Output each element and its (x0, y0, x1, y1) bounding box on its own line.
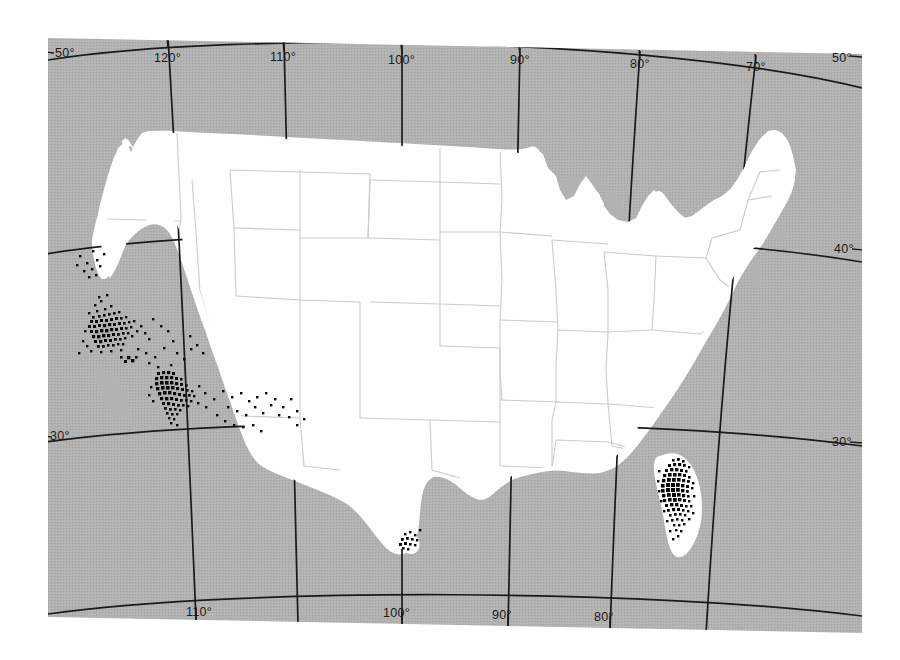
label-lon-90-bottom: 90° (492, 608, 512, 622)
map-figure: 50° 30° 50° 40° 30° 120° 110° 100° 90° 8… (0, 0, 900, 660)
label-lat-40-right: 40° (834, 242, 854, 256)
long-island-sound (772, 230, 788, 241)
label-lon-120-top: 120° (154, 51, 181, 65)
label-lon-90-top: 90° (510, 53, 530, 67)
label-lon-110-bottom: 110° (186, 605, 212, 619)
distribution-map: 50° 30° 50° 40° 30° 120° 110° 100° 90° 8… (0, 0, 900, 660)
label-lat-30-left: 30° (50, 429, 70, 443)
label-lat-30-right: 30° (832, 435, 852, 449)
label-lon-110-top: 110° (270, 50, 296, 64)
label-lon-80-top: 80° (630, 57, 650, 71)
label-lon-80-bottom: 80° (594, 610, 614, 624)
label-lon-70-top: 70° (746, 60, 766, 74)
label-lat-50-left: 50° (55, 46, 75, 60)
label-lat-50-right: 50° (832, 51, 852, 65)
label-lon-100-bottom: 100° (383, 606, 410, 620)
label-lon-100-top: 100° (388, 53, 415, 67)
